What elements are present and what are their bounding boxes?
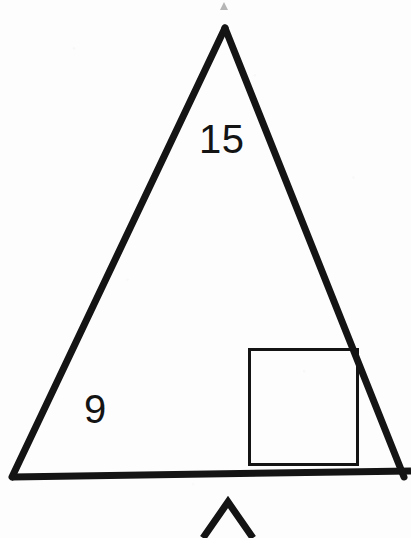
triangle-left-side bbox=[12, 28, 225, 477]
figure-canvas: 15 9 bbox=[0, 0, 411, 538]
geometry-figure bbox=[0, 0, 411, 538]
partial-triangle-apex bbox=[203, 502, 253, 538]
inner-square bbox=[250, 350, 358, 465]
triangle-base-side bbox=[12, 471, 411, 477]
scan-artifact-mark bbox=[220, 2, 228, 10]
slant-side-length-label: 15 bbox=[199, 119, 245, 159]
base-side-length-label: 9 bbox=[84, 389, 106, 429]
triangle-right-side bbox=[225, 28, 404, 477]
